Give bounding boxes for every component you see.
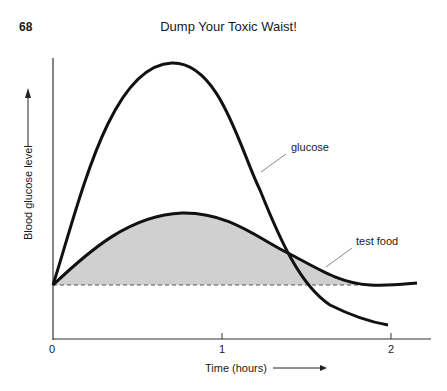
y-axis-arrow-head <box>25 88 31 98</box>
glucose-curve <box>53 63 388 325</box>
test-food-area <box>53 213 370 285</box>
glucose-leader-line <box>261 154 286 172</box>
x-axis-arrow-head <box>320 365 327 371</box>
x-axis-title: Time (hours) <box>205 362 267 374</box>
glucose-chart: glucose test food 0 1 2 Time (hours) Blo… <box>0 0 447 391</box>
y-axis-title: Blood glucose level <box>22 145 34 240</box>
x-tick-label-2: 2 <box>388 343 394 355</box>
x-tick-label-0: 0 <box>49 343 55 355</box>
glucose-label: glucose <box>291 141 329 153</box>
x-tick-label-1: 1 <box>219 343 225 355</box>
test-food-label: test food <box>356 235 398 247</box>
test-food-leader-line <box>326 248 352 267</box>
